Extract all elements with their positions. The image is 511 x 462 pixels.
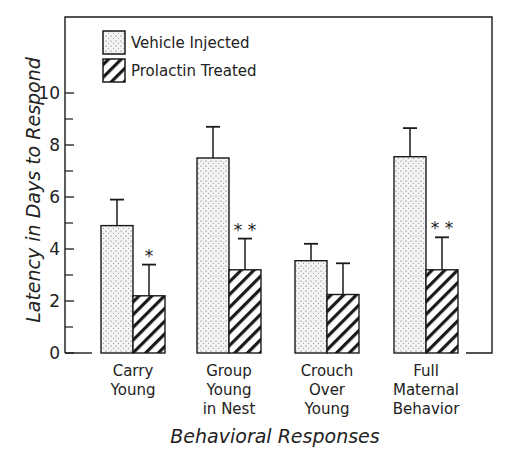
legend-label: Prolactin Treated (131, 62, 257, 80)
bar-vehicle-injected (101, 226, 133, 353)
significance-marker: * * (234, 220, 256, 240)
x-category-labels: CarryYoungGroupYoungin NestCrouchOverYou… (110, 362, 461, 418)
x-category-label: in Nest (203, 400, 256, 418)
x-category-label: Young (110, 381, 156, 399)
bar-group (295, 244, 359, 353)
bar-group (101, 200, 165, 353)
y-tick-label: 4 (49, 239, 60, 259)
x-category-label: Behavior (393, 400, 460, 418)
bar-groups: ** ** * (101, 127, 458, 353)
bar-prolactin-treated (426, 270, 458, 353)
y-tick-label: 2 (49, 291, 60, 311)
y-tick-label: 8 (49, 135, 60, 155)
x-category-label: Maternal (393, 381, 459, 399)
legend-swatch-prolactin-treated (103, 59, 125, 82)
x-category-label: Group (206, 362, 252, 380)
y-axis-title: Latency in Days to Respond (22, 56, 44, 323)
bar-vehicle-injected (394, 157, 426, 353)
y-tick-label: 6 (49, 187, 60, 207)
bar-vehicle-injected (295, 261, 327, 353)
y-tick-label: 0 (49, 343, 60, 363)
x-category-label: Crouch (301, 362, 354, 380)
bar-vehicle-injected (197, 158, 229, 353)
bar-prolactin-treated (327, 295, 359, 354)
significance-marker: * * (431, 218, 453, 238)
x-category-label: Young (304, 400, 350, 418)
x-axis-title: Behavioral Responses (170, 425, 379, 447)
x-category-label: Over (309, 381, 346, 399)
bar-prolactin-treated (133, 296, 165, 353)
significance-marker: * (145, 246, 154, 266)
x-category-label: Full (413, 362, 439, 380)
bar-prolactin-treated (229, 270, 261, 353)
legend: Vehicle InjectedProlactin Treated (103, 31, 257, 82)
bar-chart: 0246810 ** ** * CarryYoungGroupYoungin N… (0, 0, 511, 462)
x-category-label: Carry (113, 362, 154, 380)
legend-swatch-vehicle-injected (103, 31, 125, 54)
x-category-label: Young (206, 381, 252, 399)
legend-label: Vehicle Injected (131, 34, 250, 52)
bar-group (197, 127, 261, 353)
bar-group (394, 128, 458, 353)
